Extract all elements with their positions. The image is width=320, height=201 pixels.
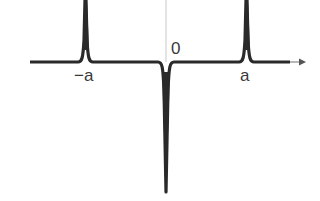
diagram-plot [0, 0, 320, 201]
label-neg-a: −a [74, 67, 93, 84]
label-origin: 0 [171, 40, 180, 57]
function-curve [30, 0, 290, 192]
x-axis-arrow-icon [299, 59, 306, 66]
diagram-canvas: −a 0 a [0, 0, 320, 201]
center-negative-spike [162, 72, 170, 192]
label-pos-a: a [240, 67, 249, 84]
